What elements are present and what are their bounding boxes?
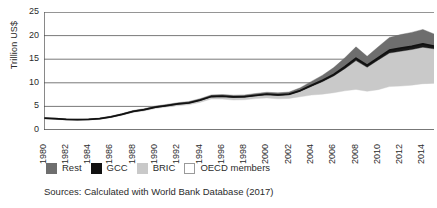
x-tick-1990: 1990: [150, 130, 159, 164]
legend-swatch-icon: [91, 163, 102, 174]
y-axis-tick-labels: 2520151050: [18, 11, 39, 130]
x-tick-2012: 2012: [395, 130, 404, 164]
x-tick-2004: 2004: [306, 130, 315, 164]
x-tick-2010: 2010: [373, 130, 382, 164]
y-tick-10: 10: [29, 78, 39, 87]
chart-legend: RestGCCBRICOECD members: [46, 160, 376, 176]
legend-swatch-icon: [46, 163, 57, 174]
y-tick-20: 20: [29, 31, 39, 40]
x-tick-1996: 1996: [217, 130, 226, 164]
stacked-area-chart: [44, 12, 434, 130]
x-tick-1992: 1992: [172, 130, 181, 164]
x-tick-1986: 1986: [105, 130, 114, 164]
legend-label: Rest: [62, 163, 82, 173]
x-axis-tick-labels: 1980198219841986198819901992199419961998…: [44, 128, 434, 164]
x-tick-2002: 2002: [284, 130, 293, 164]
chart-figure: Trillion US$ 2520151050 1980198219841986…: [0, 0, 437, 208]
legend-swatch-icon: [184, 163, 195, 174]
x-tick-2014: 2014: [417, 130, 426, 164]
legend-item-bric[interactable]: BRIC: [137, 163, 176, 174]
legend-swatch-icon: [137, 163, 148, 174]
legend-item-gcc[interactable]: GCC: [91, 163, 128, 174]
plot-area: Trillion US$ 2520151050 1980198219841986…: [0, 0, 437, 140]
legend-item-oecd-members[interactable]: OECD members: [184, 163, 270, 174]
x-tick-1984: 1984: [83, 130, 92, 164]
x-tick-1988: 1988: [128, 130, 137, 164]
y-tick-5: 5: [34, 101, 39, 110]
x-tick-1980: 1980: [39, 130, 48, 164]
x-tick-1982: 1982: [61, 130, 70, 164]
x-tick-2000: 2000: [261, 130, 270, 164]
x-tick-2006: 2006: [328, 130, 337, 164]
y-tick-15: 15: [29, 54, 39, 63]
legend-item-rest[interactable]: Rest: [46, 163, 82, 174]
legend-label: OECD members: [200, 163, 270, 173]
legend-label: GCC: [107, 163, 128, 173]
area-series-group: [44, 29, 434, 130]
x-tick-2008: 2008: [351, 130, 360, 164]
y-tick-25: 25: [29, 7, 39, 16]
source-note: Sources: Calculated with World Bank Data…: [44, 186, 274, 197]
legend-label: BRIC: [153, 163, 176, 173]
x-tick-1994: 1994: [195, 130, 204, 164]
x-tick-1998: 1998: [239, 130, 248, 164]
